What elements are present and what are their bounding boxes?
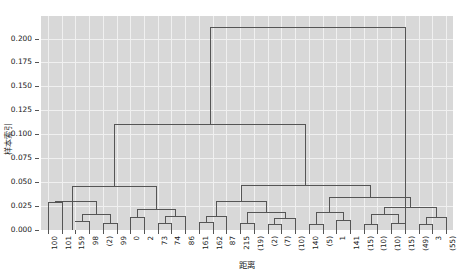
- x-tick-mark: [323, 230, 324, 234]
- dendrogram-link-horizontal: [247, 212, 285, 213]
- dendrogram-link-vertical: [137, 209, 138, 217]
- leaf-label: (19): [257, 236, 264, 251]
- dendrogram-link-vertical: [96, 201, 97, 214]
- leaf-label: 98: [92, 236, 99, 245]
- gridline-vertical: [89, 16, 90, 230]
- dendrogram-link-vertical: [446, 217, 447, 230]
- dendrogram-link-horizontal: [210, 27, 405, 28]
- x-axis: 10010115998(2)990273748616116287215(19)(…: [41, 230, 453, 260]
- y-tick-mark: [35, 206, 39, 207]
- x-tick-mark: [62, 230, 63, 234]
- dendrogram-link-vertical: [130, 217, 131, 230]
- x-tick-mark: [199, 230, 200, 234]
- dendrogram-link-vertical: [165, 216, 166, 223]
- y-tick-mark: [35, 182, 39, 183]
- y-tick-mark: [35, 134, 39, 135]
- gridline-vertical: [295, 16, 296, 230]
- leaf-label: (2): [106, 236, 113, 246]
- x-tick-mark: [405, 230, 406, 234]
- dendrogram-link-vertical: [226, 216, 227, 230]
- leaf-label: 162: [216, 236, 223, 250]
- dendrogram-link-vertical: [62, 202, 63, 230]
- leaf-label: 1: [339, 236, 346, 241]
- x-tick-mark: [364, 230, 365, 234]
- gridline-vertical: [323, 16, 324, 230]
- gridline-vertical: [254, 16, 255, 230]
- gridline-vertical: [226, 16, 227, 230]
- x-tick-mark: [377, 230, 378, 234]
- dendrogram-link-vertical: [391, 223, 392, 230]
- dendrogram-link-vertical: [329, 197, 330, 212]
- y-tick-label: 0.175: [11, 59, 32, 66]
- gridline-vertical: [268, 16, 269, 230]
- dendrogram-link-horizontal: [309, 224, 323, 225]
- leaf-label: (49): [422, 236, 429, 251]
- dendrogram-link-vertical: [210, 27, 211, 125]
- dendrogram-link-vertical: [274, 218, 275, 224]
- dendrogram-link-horizontal: [165, 216, 186, 217]
- x-tick-mark: [446, 230, 447, 234]
- x-tick-mark: [89, 230, 90, 234]
- dendrogram-link-vertical: [436, 207, 437, 218]
- dendrogram-link-vertical: [316, 212, 317, 223]
- gridline-vertical: [309, 16, 310, 230]
- x-tick-mark: [226, 230, 227, 234]
- y-tick-mark: [35, 230, 39, 231]
- y-tick-mark: [35, 86, 39, 87]
- leaf-label: 2: [147, 236, 154, 241]
- dendrogram-link-horizontal: [384, 207, 436, 208]
- y-tick-label: 0.100: [11, 131, 32, 138]
- leaf-label: 159: [78, 236, 85, 250]
- dendrogram-link-vertical: [285, 212, 286, 218]
- gridline-vertical: [171, 16, 172, 230]
- x-tick-mark: [171, 230, 172, 234]
- dendrogram-link-vertical: [426, 217, 427, 224]
- x-tick-mark: [144, 230, 145, 234]
- dendrogram-link-vertical: [254, 223, 255, 230]
- dendrogram-link-horizontal: [391, 223, 405, 224]
- gridline-vertical: [62, 16, 63, 230]
- dendrogram-link-vertical: [156, 186, 157, 209]
- leaf-label: 161: [202, 236, 209, 250]
- leaf-label: (7): [284, 236, 291, 246]
- dendrogram-link-vertical: [266, 201, 267, 212]
- x-tick-mark: [185, 230, 186, 234]
- gridline-vertical: [281, 16, 282, 230]
- dendrogram-link-vertical: [110, 214, 111, 223]
- dendrogram-link-vertical: [89, 221, 90, 230]
- leaf-label: (10): [380, 236, 387, 251]
- dendrogram-link-vertical: [158, 223, 159, 230]
- leaf-label: 3: [435, 236, 442, 241]
- gridline-vertical: [48, 16, 49, 230]
- leaf-label: 215: [243, 236, 250, 250]
- dendrogram-link-horizontal: [206, 216, 227, 217]
- dendrogram-link-vertical: [117, 223, 118, 230]
- gridline-vertical: [130, 16, 131, 230]
- leaf-label: (55): [449, 236, 456, 251]
- leaf-label: (5): [326, 236, 333, 246]
- leaf-label: (2): [271, 236, 278, 246]
- x-tick-mark: [213, 230, 214, 234]
- leaf-label: 99: [120, 236, 127, 245]
- dendrogram-link-vertical: [206, 216, 207, 222]
- dendrogram-link-vertical: [171, 223, 172, 230]
- y-tick-label: 0.050: [11, 178, 32, 185]
- dendrogram-link-horizontal: [241, 185, 370, 186]
- y-axis-title: 样本索引: [2, 109, 13, 169]
- dendrogram-link-horizontal: [240, 223, 254, 224]
- dendrogram-link-vertical: [371, 214, 372, 224]
- gridline-vertical: [213, 16, 214, 230]
- gridline-vertical: [419, 16, 420, 230]
- y-tick-label: 0.075: [11, 154, 32, 161]
- x-tick-mark: [117, 230, 118, 234]
- y-tick-label: 0.125: [11, 107, 32, 114]
- dendrogram-link-vertical: [398, 214, 399, 223]
- y-tick-mark: [35, 110, 39, 111]
- leaf-label: (10): [394, 236, 401, 251]
- dendrogram-link-vertical: [405, 27, 406, 230]
- dendrogram-link-horizontal: [316, 212, 343, 213]
- x-tick-mark: [350, 230, 351, 234]
- y-tick-label: 0.200: [11, 35, 32, 42]
- dendrogram-link-vertical: [175, 209, 176, 216]
- y-tick-mark: [35, 62, 39, 63]
